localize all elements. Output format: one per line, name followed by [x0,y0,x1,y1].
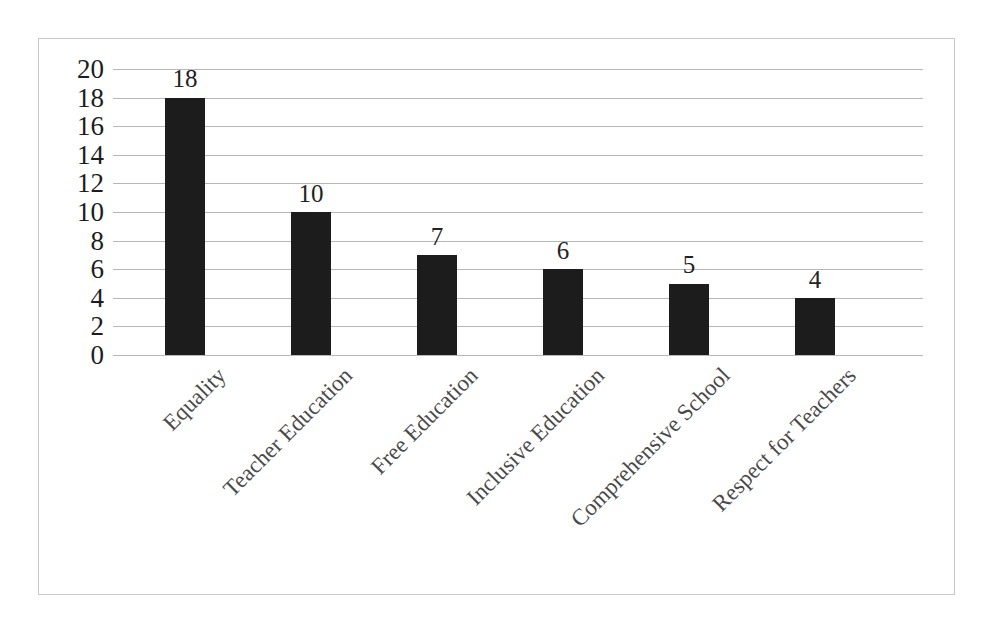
gridline [113,355,923,356]
bar-value-label: 5 [649,252,729,277]
bar-value-label: 18 [145,66,225,91]
y-tick-label: 20 [44,56,104,83]
gridline [113,126,923,127]
bar-value-label: 10 [271,181,351,206]
y-tick-label: 2 [44,313,104,340]
gridline [113,69,923,70]
y-tick-label: 16 [44,113,104,140]
gridline [113,98,923,99]
bar-chart: 20 18 16 14 12 10 8 6 4 2 0 18 10 7 6 5 [0,0,990,627]
y-tick-label: 4 [44,284,104,311]
y-tick-label: 8 [44,227,104,254]
bar [417,255,457,355]
bar-value-label: 7 [397,224,477,249]
bar-value-label: 4 [775,267,855,292]
y-tick-label: 10 [44,199,104,226]
plot-area: 18 10 7 6 5 4 [113,69,923,355]
bar [291,212,331,355]
bar [669,284,709,356]
bar [165,98,205,355]
bar-value-label: 6 [523,238,603,263]
gridline [113,183,923,184]
y-axis-tick-labels: 20 18 16 14 12 10 8 6 4 2 0 [42,69,104,355]
bar [795,298,835,355]
y-tick-label: 14 [44,141,104,168]
gridline [113,241,923,242]
y-tick-label: 6 [44,256,104,283]
y-tick-label: 18 [44,84,104,111]
bar [543,269,583,355]
gridline [113,212,923,213]
y-tick-label: 12 [44,170,104,197]
gridline [113,155,923,156]
y-tick-label: 0 [44,342,104,369]
